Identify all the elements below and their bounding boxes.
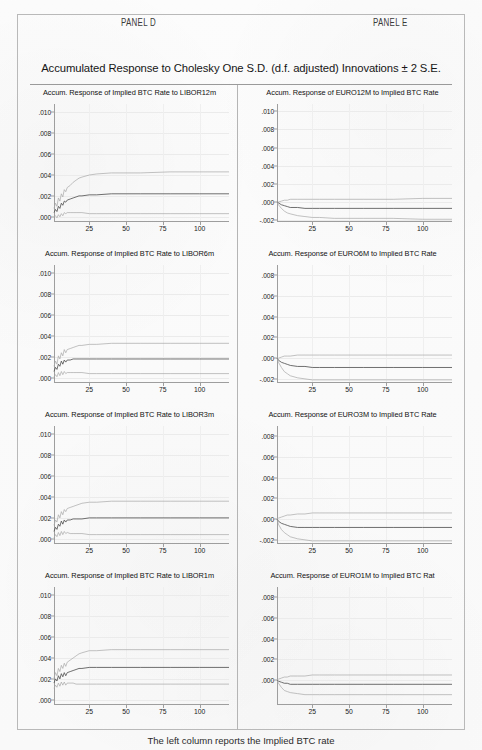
series-line	[54, 372, 229, 377]
x-axis-tick-label: 75	[382, 225, 390, 232]
series-line	[277, 519, 452, 527]
y-axis-tick-label: .004	[262, 474, 274, 481]
x-axis-tick-label: 50	[122, 225, 130, 232]
x-axis-tick-label: 100	[417, 708, 428, 715]
chart-title-btc-libor6m: Accum. Response of Implied BTC Rate to L…	[18, 249, 241, 258]
figure-caption: The left column reports the Implied BTC …	[18, 735, 464, 746]
x-axis-tick-label: 100	[417, 386, 428, 393]
chart-title-btc-libor1m: Accum. Response of Implied BTC Rate to L…	[18, 571, 241, 580]
x-axis-tick-label: 25	[86, 386, 94, 393]
figure-title: Accumulated Response to Cholesky One S.D…	[18, 62, 464, 74]
y-axis-tick-label: .006	[262, 144, 274, 151]
x-axis-tick-label: 75	[382, 547, 390, 554]
chart-panel-euro6m-btc: Accum. Response of EURO6M to Implied BTC…	[241, 247, 464, 408]
panel-d-label: PANEL D	[121, 16, 156, 28]
x-axis-tick-label: 25	[309, 225, 317, 232]
series-line	[54, 650, 229, 678]
series-line	[54, 531, 229, 537]
series-line	[277, 202, 452, 208]
x-axis-tick-label: 50	[345, 225, 353, 232]
series-line	[54, 682, 229, 688]
x-axis-tick-label: 100	[417, 547, 428, 554]
x-axis-tick-label: 25	[309, 386, 317, 393]
curve-layer-euro3m-btc	[277, 426, 452, 544]
series-line	[54, 501, 229, 525]
plot-area-btc-libor1m: .000.002.004.006.008.010255075100	[54, 587, 229, 705]
series-line	[277, 519, 452, 541]
series-line	[54, 518, 229, 532]
series-line	[54, 343, 229, 366]
y-axis-tick-label: .000	[39, 374, 51, 381]
y-axis-tick-label: .002	[39, 353, 51, 360]
y-axis-tick-label: .000	[39, 696, 51, 703]
y-axis-tick-label: .000	[262, 677, 274, 684]
chart-panel-btc-libor3m: Accum. Response of Implied BTC Rate to L…	[18, 408, 241, 569]
y-axis-tick-label: .006	[39, 312, 51, 319]
y-axis-tick-label: -.002	[259, 217, 274, 224]
plot-area-btc-libor6m: .000.002.004.006.008.010255075100	[54, 265, 229, 383]
plot-area-btc-libor3m: .000.002.004.006.008.010255075100	[54, 426, 229, 544]
curve-layer-btc-libor6m	[54, 265, 229, 383]
y-axis-tick-label: .010	[262, 108, 274, 115]
y-axis-tick-label: .000	[262, 199, 274, 206]
x-axis-tick-label: 25	[86, 547, 94, 554]
curve-layer-euro1m-btc	[277, 587, 452, 705]
x-axis-tick-label: 75	[382, 708, 390, 715]
x-axis-tick-label: 50	[122, 547, 130, 554]
y-axis-tick-label: .004	[39, 172, 51, 179]
y-axis-tick-label: .006	[262, 293, 274, 300]
chart-panel-euro12m-btc: Accum. Response of EURO12M to Implied BT…	[241, 86, 464, 247]
x-axis-tick-label: 25	[86, 708, 94, 715]
series-line	[54, 667, 229, 683]
y-axis-tick-label: .008	[262, 433, 274, 440]
y-axis-tick-label: .000	[262, 516, 274, 523]
y-axis-tick-label: .010	[39, 592, 51, 599]
y-axis-tick-label: .004	[262, 162, 274, 169]
series-line	[54, 213, 229, 218]
x-axis-tick-label: 75	[159, 386, 167, 393]
y-axis-tick-label: .008	[39, 291, 51, 298]
series-line	[54, 172, 229, 209]
y-axis-tick-label: .000	[39, 535, 51, 542]
chart-panel-btc-libor6m: Accum. Response of Implied BTC Rate to L…	[18, 247, 241, 408]
y-axis-tick-label: .008	[262, 594, 274, 601]
series-line	[277, 358, 452, 380]
x-axis-tick-label: 100	[194, 708, 205, 715]
series-line	[277, 198, 452, 202]
chart-panel-btc-libor1m: Accum. Response of Implied BTC Rate to L…	[18, 569, 241, 730]
y-axis-tick-label: .008	[39, 452, 51, 459]
x-axis-tick-label: 75	[159, 708, 167, 715]
x-axis-tick-label: 100	[194, 547, 205, 554]
x-axis-tick-label: 50	[345, 547, 353, 554]
y-axis-tick-label: .010	[39, 109, 51, 116]
y-axis-tick-label: .006	[39, 151, 51, 158]
chart-title-euro12m-btc: Accum. Response of EURO12M to Implied BT…	[241, 88, 464, 97]
y-axis-tick-label: .000	[262, 355, 274, 362]
y-axis-tick-label: .008	[262, 272, 274, 279]
x-axis-tick-label: 50	[345, 386, 353, 393]
curve-layer-btc-libor3m	[54, 426, 229, 544]
x-axis-tick-label: 50	[122, 386, 130, 393]
series-line	[277, 675, 452, 680]
series-line	[277, 680, 452, 684]
chart-grid: Accum. Response of Implied BTC Rate to L…	[18, 86, 464, 730]
y-axis-tick-label: .002	[39, 514, 51, 521]
series-line	[277, 358, 452, 367]
series-line	[277, 202, 452, 219]
y-axis-tick-label: .002	[262, 334, 274, 341]
y-axis-tick-label: .010	[39, 431, 51, 438]
chart-panel-euro1m-btc: Accum. Response of EURO1M to Implied BTC…	[241, 569, 464, 730]
series-line	[277, 355, 452, 358]
x-axis-tick-label: 100	[417, 225, 428, 232]
y-axis-tick-label: .008	[262, 126, 274, 133]
chart-title-btc-libor12m: Accum. Response of Implied BTC Rate to L…	[18, 88, 241, 97]
series-line	[277, 680, 452, 694]
y-axis-tick-label: .010	[39, 270, 51, 277]
chart-title-btc-libor3m: Accum. Response of Implied BTC Rate to L…	[18, 410, 241, 419]
plot-area-euro1m-btc: .000.002.004.006.008255075100	[277, 587, 452, 705]
plot-area-euro6m-btc: -.002.000.002.004.006.008255075100	[277, 265, 452, 383]
y-axis-tick-label: .006	[262, 454, 274, 461]
plot-area-btc-libor12m: .000.002.004.006.008.010255075100	[54, 104, 229, 222]
y-axis-tick-label: .002	[262, 656, 274, 663]
plot-area-euro12m-btc: -.002.000.002.004.006.008.010255075100	[277, 104, 452, 222]
